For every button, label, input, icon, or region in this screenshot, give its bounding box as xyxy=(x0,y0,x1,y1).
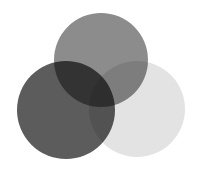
right-circle xyxy=(89,61,185,157)
venn-diagram xyxy=(0,0,200,174)
